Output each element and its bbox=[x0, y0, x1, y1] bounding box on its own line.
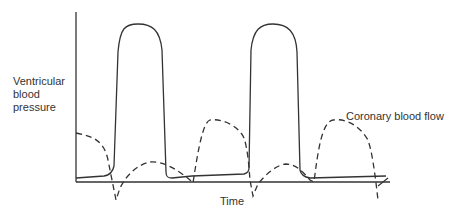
coronary-flow-curve bbox=[76, 120, 378, 200]
y-axis-label: Ventricular blood pressure bbox=[13, 75, 65, 114]
y-label-line-1: Ventricular bbox=[13, 75, 65, 88]
x-axis-label: Time bbox=[220, 195, 244, 208]
y-label-line-3: pressure bbox=[13, 101, 65, 114]
series-label-coronary-flow: Coronary blood flow bbox=[346, 110, 444, 123]
y-label-line-2: blood bbox=[13, 88, 65, 101]
diagram-canvas bbox=[0, 0, 450, 213]
ventricular-pressure-curve bbox=[76, 24, 386, 178]
